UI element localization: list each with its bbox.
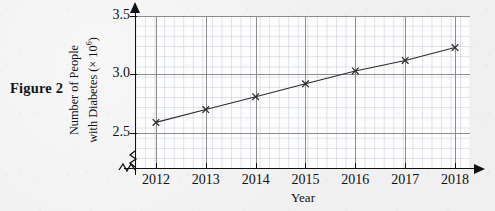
y-axis-arrow-icon xyxy=(130,2,140,13)
y-tick-3.5 xyxy=(130,16,137,17)
y-tick-label-3.0: 3.0 xyxy=(92,65,130,81)
y-tick-3.0 xyxy=(130,74,137,75)
x-tick-2017 xyxy=(405,163,406,169)
series-markers xyxy=(153,44,459,125)
x-tick-2012 xyxy=(156,163,157,169)
x-tick-label-2012: 2012 xyxy=(131,172,181,188)
plot-area xyxy=(136,16,470,168)
data-point-2015 xyxy=(302,81,309,88)
y-tick-label-2.5: 2.5 xyxy=(92,124,130,140)
y-tick-2.5 xyxy=(130,133,137,134)
x-tick-2014 xyxy=(256,163,257,169)
x-axis-title: Year xyxy=(136,190,470,206)
series-line xyxy=(156,48,455,123)
data-point-2014 xyxy=(252,93,259,100)
figure-container: Figure 2 Number of People with Diabetes … xyxy=(0,0,495,211)
x-tick-label-2018: 2018 xyxy=(430,172,480,188)
x-tick-label-2017: 2017 xyxy=(380,172,430,188)
x-tick-label-2015: 2015 xyxy=(280,172,330,188)
data-point-2012 xyxy=(153,119,160,126)
y-tick-label-3.5: 3.5 xyxy=(92,7,130,23)
x-tick-2016 xyxy=(355,163,356,169)
data-point-2018 xyxy=(452,44,459,51)
y-axis-title-exponent: 6 xyxy=(85,41,94,45)
x-axis-line xyxy=(124,168,476,169)
data-series xyxy=(136,16,470,168)
x-tick-label-2013: 2013 xyxy=(181,172,231,188)
x-tick-2015 xyxy=(305,163,306,169)
x-tick-label-2014: 2014 xyxy=(231,172,281,188)
y-axis-title: Number of People with Diabetes (× 106) xyxy=(66,0,102,180)
x-tick-2018 xyxy=(455,163,456,169)
y-axis-title-line-2-close: ) xyxy=(86,37,100,41)
x-tick-label-2016: 2016 xyxy=(330,172,380,188)
x-tick-2013 xyxy=(206,163,207,169)
data-point-2013 xyxy=(202,106,209,113)
y-axis-title-line-1: Number of People xyxy=(67,37,82,143)
